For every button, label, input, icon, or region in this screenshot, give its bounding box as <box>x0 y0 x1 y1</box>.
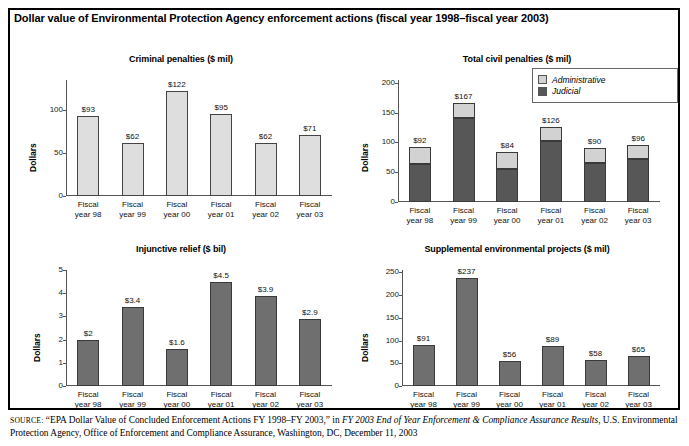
y-axis-tick-label: 50 <box>390 359 399 367</box>
x-axis-tick-label-line2: year 99 <box>119 400 146 410</box>
x-axis-tick-label-line1: Fiscal <box>163 200 190 210</box>
x-axis-tick-label-line1: Fiscal <box>453 390 480 400</box>
legend-label: Judicial <box>552 86 580 96</box>
y-axis-tick-mark <box>63 110 66 111</box>
source-keyword: SOURCE: <box>10 416 43 425</box>
x-axis-tick-label-line2: year 01 <box>539 400 566 410</box>
bar-segment-administrative <box>540 127 562 141</box>
bar-segment-administrative <box>496 152 518 169</box>
x-axis-tick-label-line1: Fiscal <box>625 206 652 216</box>
x-axis-tick-label: Fiscalyear 02 <box>252 390 279 409</box>
x-axis-tick-label-line1: Fiscal <box>406 206 433 216</box>
bar <box>496 152 518 202</box>
x-axis-tick-label: Fiscalyear 00 <box>163 390 190 409</box>
y-axis <box>66 80 67 196</box>
y-axis-tick-label: 50 <box>386 168 395 176</box>
bar <box>628 356 650 386</box>
y-axis-label: Dollars <box>360 333 370 362</box>
bar-value-label: $95 <box>214 103 227 112</box>
bar <box>542 346 564 386</box>
y-axis-tick-mark <box>63 363 66 364</box>
bar-value-label: $91 <box>417 334 430 343</box>
x-axis-tick-label-line1: Fiscal <box>119 390 146 400</box>
y-axis <box>398 80 399 202</box>
bar-segment-administrative <box>409 147 431 164</box>
bar-value-label: $2 <box>84 329 93 338</box>
chart-panel-total-civil-penalties: Total civil penalties ($ mil) Dollars 05… <box>356 54 678 222</box>
x-axis-tick-label: Fiscalyear 01 <box>537 206 564 225</box>
y-axis-label: Dollars <box>32 333 42 362</box>
x-axis-tick-label-line2: year 98 <box>410 400 437 410</box>
chart-panel-injunctive-relief: Injunctive relief ($ bil) Dollars 012345… <box>22 244 340 412</box>
page-title: Dollar value of Environmental Protection… <box>14 12 549 24</box>
bar <box>122 307 144 386</box>
x-axis-tick-label: Fiscalyear 03 <box>625 206 652 225</box>
bar <box>77 340 99 386</box>
x-axis-tick-label-line2: year 03 <box>296 210 323 220</box>
x-axis-tick-label-line1: Fiscal <box>410 390 437 400</box>
x-axis-tick-label-line1: Fiscal <box>208 390 235 400</box>
y-axis-tick-label: 150 <box>382 109 395 117</box>
bar-value-label: $4.5 <box>213 271 229 280</box>
plot-area: 050100$93Fiscalyear 98$62Fiscalyear 99$1… <box>66 80 332 196</box>
x-axis-tick-label-line2: year 00 <box>163 210 190 220</box>
bar-value-label: $237 <box>458 267 476 276</box>
bar <box>585 360 607 386</box>
chart-title: Supplemental environmental projects ($ m… <box>356 244 678 254</box>
legend-swatch-judicial-icon <box>538 87 547 96</box>
x-axis <box>66 385 332 386</box>
bar <box>299 319 321 386</box>
y-axis <box>66 270 67 386</box>
x-axis-tick-label: Fiscalyear 00 <box>494 206 521 225</box>
y-axis-tick-label: 100 <box>50 106 63 114</box>
x-axis-tick-label: Fiscalyear 01 <box>208 390 235 409</box>
x-axis-tick-label-line2: year 02 <box>581 216 608 226</box>
bar <box>409 147 431 202</box>
chart-panel-criminal-penalties: Criminal penalties ($ mil) Dollars 05010… <box>22 54 340 222</box>
x-axis <box>402 385 660 386</box>
x-axis-tick-label: Fiscalyear 98 <box>410 390 437 409</box>
x-axis-tick-label: Fiscalyear 99 <box>453 390 480 409</box>
x-axis-tick-label-line2: year 03 <box>625 216 652 226</box>
bar-segment-administrative <box>453 103 475 118</box>
x-axis-tick-label-line2: year 01 <box>208 400 235 410</box>
legend-item-administrative: Administrative <box>538 75 670 85</box>
x-axis <box>66 195 332 196</box>
x-axis-tick-label-line2: year 01 <box>537 216 564 226</box>
x-axis-tick-label: Fiscalyear 01 <box>208 200 235 219</box>
y-axis-tick-mark <box>399 318 402 319</box>
legend-item-judicial: Judicial <box>538 86 670 96</box>
legend-label: Administrative <box>552 75 605 85</box>
bar <box>210 114 232 196</box>
y-axis-tick-mark <box>63 316 66 317</box>
legend-swatch-administrative-icon <box>538 75 547 84</box>
chart-title: Total civil penalties ($ mil) <box>356 54 678 64</box>
x-axis-tick-label: Fiscalyear 03 <box>625 390 652 409</box>
bar-segment-judicial <box>627 159 649 202</box>
y-axis-tick-label: 200 <box>382 79 395 87</box>
bar-value-label: $2.9 <box>302 308 318 317</box>
x-axis-tick-label-line1: Fiscal <box>208 200 235 210</box>
y-axis-tick-mark <box>395 172 398 173</box>
source-publication-title: FY 2003 End of Year Enforcement & Compli… <box>342 415 598 425</box>
y-axis-tick-mark <box>63 196 66 197</box>
y-axis-tick-label: 200 <box>386 291 399 299</box>
source-text-part1: “EPA Dollar Value of Concluded Enforceme… <box>43 415 341 425</box>
bar-value-label: $1.6 <box>169 338 185 347</box>
bar <box>299 135 321 196</box>
bar <box>210 282 232 386</box>
bar <box>166 349 188 386</box>
x-axis-tick-label-line2: year 02 <box>252 400 279 410</box>
bar-value-label: $71 <box>303 124 316 133</box>
x-axis-tick-label-line1: Fiscal <box>539 390 566 400</box>
x-axis-tick-label-line2: year 00 <box>494 216 521 226</box>
bar <box>456 278 478 386</box>
bar <box>499 361 521 386</box>
bar-value-label: $58 <box>589 349 602 358</box>
y-axis-tick-mark <box>399 295 402 296</box>
chart-panel-supplemental-environmental-projects: Supplemental environmental projects ($ m… <box>356 244 678 412</box>
x-axis-tick-label-line1: Fiscal <box>450 206 477 216</box>
bar-segment-judicial <box>453 118 475 203</box>
bar <box>540 127 562 202</box>
bar-value-label: $89 <box>546 335 559 344</box>
